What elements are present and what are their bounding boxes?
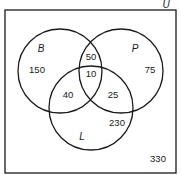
region-outside: 330 bbox=[150, 153, 166, 164]
universe-rectangle bbox=[5, 10, 176, 173]
region-l-only: 230 bbox=[109, 117, 125, 128]
region-p-only: 75 bbox=[145, 64, 156, 75]
set-l-label: L bbox=[79, 131, 85, 142]
region-b-l: 40 bbox=[63, 89, 74, 100]
region-b-only: 150 bbox=[29, 64, 45, 75]
set-b-label: B bbox=[38, 43, 45, 54]
venn-diagram: U B P L 150 75 50 10 40 25 230 330 bbox=[0, 0, 181, 175]
region-b-p: 50 bbox=[86, 51, 97, 62]
region-b-p-l: 10 bbox=[86, 68, 97, 79]
set-p-label: P bbox=[132, 43, 139, 54]
universe-label: U bbox=[162, 0, 170, 10]
region-p-l: 25 bbox=[108, 89, 119, 100]
